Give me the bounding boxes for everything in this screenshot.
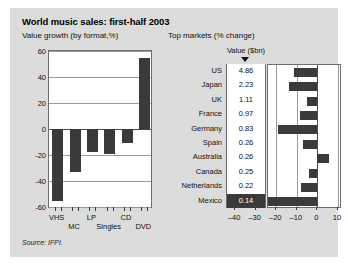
left-gridline [49,155,151,156]
right-x-tick-label: 0 [314,213,318,222]
left-chart-subtitle: Value growth (by format,%) [22,31,118,40]
value-label: 0.22 [226,179,266,193]
value-column-header: Value ($bn) [220,46,272,55]
right-x-tick [316,207,317,210]
right-x-tick-label: –10 [290,213,303,222]
market-name: US [168,64,222,78]
value-label: 0.83 [226,122,266,136]
right-bar-australia [317,154,328,163]
left-gridline [49,181,151,182]
value-label: 2.23 [226,78,266,92]
left-x-tick [107,207,108,211]
right-bar-netherlands [301,183,317,192]
left-x-tick [113,207,114,211]
triangle-down-icon [241,57,249,62]
right-bar-mexico [268,197,317,206]
left-gridline [49,51,151,52]
right-chart-subtitle: Top markets (% change) [168,31,255,40]
left-y-tick-label: 0 [42,125,46,134]
left-x-tick [78,207,79,211]
left-x-tick [141,207,142,211]
left-chart: -60-40-200204060 VHSMCLPSinglesCDDVD [22,46,154,232]
left-gridline [49,103,151,104]
left-x-tick [89,207,90,211]
right-x-axis: –40–30–20–10010 [168,210,348,222]
left-x-tick [130,207,131,211]
value-label: 0.14 [226,194,266,208]
left-plot-area: -60-40-200204060 [48,50,152,208]
market-name: France [168,107,222,121]
left-bar-cd [122,129,133,143]
right-bar-us [294,68,318,77]
right-x-tick [337,207,338,210]
left-bar-lp [87,129,98,152]
page-title: World music sales: first-half 2003 [22,16,169,27]
right-bar-canada [309,169,317,178]
right-bar-japan [289,82,318,91]
right-gridline [276,65,277,207]
right-gridline [338,65,339,207]
left-y-tick-label: -20 [35,151,46,160]
left-x-tick [124,207,125,211]
right-x-tick [234,207,235,210]
left-bar-mc [70,129,81,172]
market-name: Canada [168,165,222,179]
right-x-tick [296,207,297,210]
right-x-tick [275,207,276,210]
left-x-tick [147,207,148,211]
left-zero-line [49,129,151,130]
right-bar-uk [307,97,317,106]
value-label: 0.26 [226,150,266,164]
right-chart: Value ($bn) US4.86Japan2.23UK1.11France0… [168,46,348,232]
left-gridline [49,77,151,78]
left-y-tick-label: 20 [38,99,46,108]
market-name: Mexico [168,194,222,208]
left-x-tick [61,207,62,211]
market-name: Japan [168,78,222,92]
left-x-tick [55,207,56,211]
right-bar-spain [303,140,317,149]
right-x-tick-label: –30 [248,213,261,222]
market-name: Germany [168,122,222,136]
left-y-tick-label: 60 [38,47,46,56]
market-name: Netherlands [168,179,222,193]
left-bar-singles [104,129,115,154]
left-y-tick-label: -60 [35,203,46,212]
left-gridline [49,207,151,208]
market-name: Spain [168,136,222,150]
infographic-card: World music sales: first-half 2003 Value… [10,8,338,257]
right-bar-france [300,111,317,120]
left-bar-dvd [139,58,150,130]
right-zero-line [317,65,318,207]
left-x-tick [72,207,73,211]
right-bar-germany [278,125,317,134]
left-y-tick-label: 40 [38,73,46,82]
left-x-category-label: DVD [123,222,163,231]
source-note: Source: IFPI. [22,239,63,246]
right-x-tick [255,207,256,210]
value-label: 0.25 [226,165,266,179]
market-name: UK [168,93,222,107]
left-y-tick-label: -40 [35,177,46,186]
value-label: 0.26 [226,136,266,150]
left-x-category-label: CD [106,213,146,222]
market-name: Australia [168,150,222,164]
left-x-tick [95,207,96,211]
right-x-tick-label: 10 [333,213,341,222]
right-plot-area [267,64,341,208]
right-x-tick-label: –40 [228,213,241,222]
left-bar-vhs [52,129,63,201]
value-label: 1.11 [226,93,266,107]
value-label: 4.86 [226,64,266,78]
right-x-tick-label: –20 [269,213,282,222]
value-label: 0.97 [226,107,266,121]
